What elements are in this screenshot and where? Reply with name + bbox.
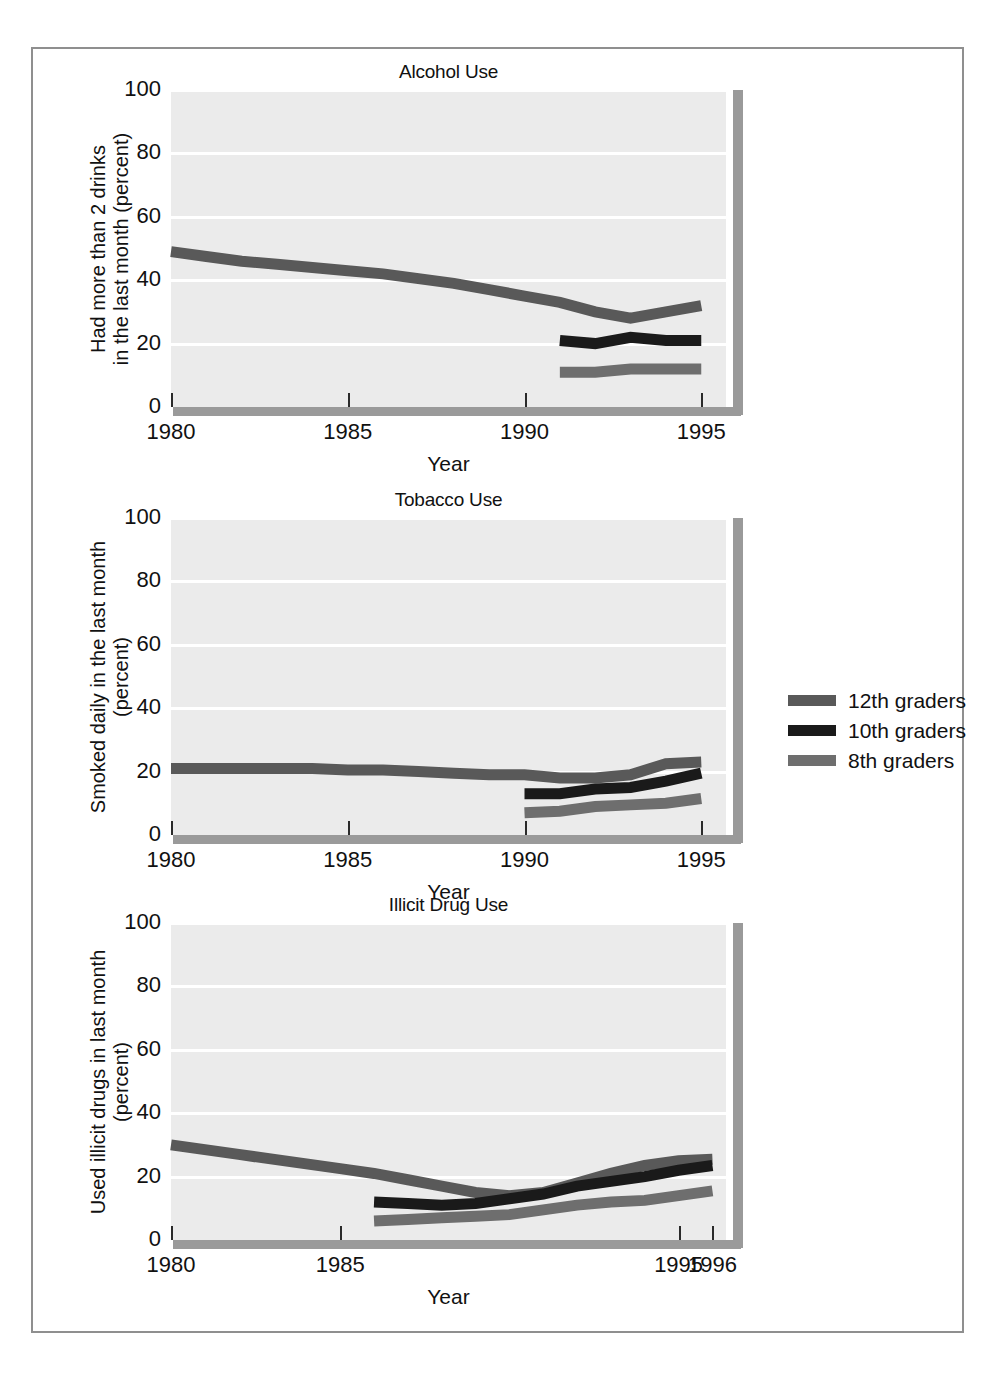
figure-frame: Alcohol Use0204060801001980198519901995Y… <box>31 47 964 1333</box>
legend-swatch-icon <box>788 725 836 736</box>
legend-item: 12th graders <box>788 687 968 714</box>
legend-item: 8th graders <box>788 747 968 774</box>
legend-label: 12th graders <box>848 689 966 713</box>
legend-label: 10th graders <box>848 719 966 743</box>
legend-label: 8th graders <box>848 749 954 773</box>
chart-legend: 12th graders10th graders8th graders <box>788 687 968 777</box>
series-line <box>171 1145 712 1196</box>
legend-swatch-icon <box>788 695 836 706</box>
legend-swatch-icon <box>788 755 836 766</box>
legend-item: 10th graders <box>788 717 968 744</box>
